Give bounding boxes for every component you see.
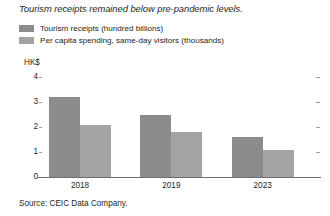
x-axis-tick-label: 2023 [222, 181, 304, 190]
y-axis-tick-mark-right [316, 102, 320, 103]
bar [263, 150, 294, 178]
y-axis-tick-mark-right [316, 77, 320, 78]
x-axis-tick-label: 2018 [39, 181, 121, 190]
bar-series-container [42, 77, 316, 177]
chart-figure: Tourism receipts remained below pre-pand… [0, 0, 330, 216]
chart-title: Tourism receipts remained below pre-pand… [19, 3, 319, 15]
bar [171, 132, 202, 177]
legend-item-per-capita-spending: Per capita spending, same-day visitors (… [19, 35, 319, 46]
y-axis-tick-label: 3 [22, 98, 38, 106]
y-axis-tick-label: 4 [22, 73, 38, 81]
x-axis-tick-label: 2019 [130, 181, 212, 190]
bar-group [232, 77, 294, 177]
chart-legend: Tourism receipts (hundred billions) Per … [19, 23, 319, 47]
legend-swatch-primary [19, 25, 34, 32]
bar [232, 137, 263, 177]
legend-swatch-secondary [19, 37, 34, 44]
source-note: Source: CEIC Data Company. [19, 199, 128, 208]
bar-group [140, 77, 202, 177]
bar-group [49, 77, 111, 177]
y-axis-unit-label: HK$ [24, 58, 40, 67]
bar [140, 115, 171, 178]
legend-item-tourism-receipts: Tourism receipts (hundred billions) [19, 23, 319, 34]
legend-label-secondary: Per capita spending, same-day visitors (… [40, 36, 224, 46]
legend-label-primary: Tourism receipts (hundred billions) [40, 24, 163, 34]
bar [80, 125, 111, 178]
x-axis-baseline [38, 177, 321, 178]
y-axis-tick-mark-right [316, 152, 320, 153]
y-axis-tick-label: 2 [22, 123, 38, 131]
y-axis-tick-mark-right [316, 127, 320, 128]
bar [49, 97, 80, 177]
y-axis-tick-label: 1 [22, 148, 38, 156]
plot-area: 01234 201820192023 [42, 77, 316, 177]
y-axis-tick-label: 0 [22, 173, 38, 181]
